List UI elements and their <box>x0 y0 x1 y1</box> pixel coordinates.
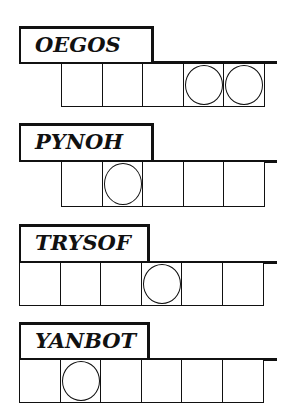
answer-cell-1[interactable] <box>61 63 103 107</box>
circle-marker-icon <box>225 65 263 105</box>
answer-cell-5[interactable] <box>181 359 223 403</box>
answer-cell-5[interactable] <box>181 262 223 306</box>
answer-cell-6[interactable] <box>222 262 264 306</box>
answer-cell-5[interactable] <box>223 161 265 207</box>
answer-cell-6[interactable] <box>222 359 264 403</box>
scrambled-word: YANBOT <box>35 328 136 353</box>
answer-cell-3[interactable] <box>142 63 184 107</box>
answer-cell-3[interactable] <box>142 161 184 207</box>
answer-cell-4-circled[interactable] <box>141 262 183 306</box>
answer-cells <box>61 63 265 107</box>
scrambled-word: TRYSOF <box>35 230 131 255</box>
answer-cell-2[interactable] <box>60 262 102 306</box>
scrambled-word: PYNOH <box>35 129 123 154</box>
answer-cell-4[interactable] <box>183 161 225 207</box>
answer-cell-3[interactable] <box>100 359 142 403</box>
answer-cell-1[interactable] <box>61 161 103 207</box>
circle-marker-icon <box>62 361 100 401</box>
circle-marker-icon <box>143 264 181 304</box>
scrambled-word-box: OEGOS <box>19 26 154 64</box>
scrambled-word: OEGOS <box>35 32 121 57</box>
answer-cell-4[interactable] <box>141 359 183 403</box>
answer-cell-1[interactable] <box>19 262 61 306</box>
answer-cell-1[interactable] <box>19 359 61 403</box>
answer-cells <box>19 359 264 403</box>
answer-cell-4-circled[interactable] <box>183 63 225 107</box>
circle-marker-icon <box>104 163 142 205</box>
answer-cell-3[interactable] <box>100 262 142 306</box>
answer-cell-5-circled[interactable] <box>223 63 265 107</box>
scrambled-word-box: TRYSOF <box>19 224 150 263</box>
answer-cell-2[interactable] <box>102 63 144 107</box>
answer-cells <box>19 262 264 306</box>
scrambled-word-box: PYNOH <box>19 123 154 162</box>
answer-cells <box>61 161 265 207</box>
answer-cell-2-circled[interactable] <box>60 359 102 403</box>
answer-cell-2-circled[interactable] <box>102 161 144 207</box>
scrambled-word-box: YANBOT <box>19 322 150 360</box>
circle-marker-icon <box>185 65 223 105</box>
